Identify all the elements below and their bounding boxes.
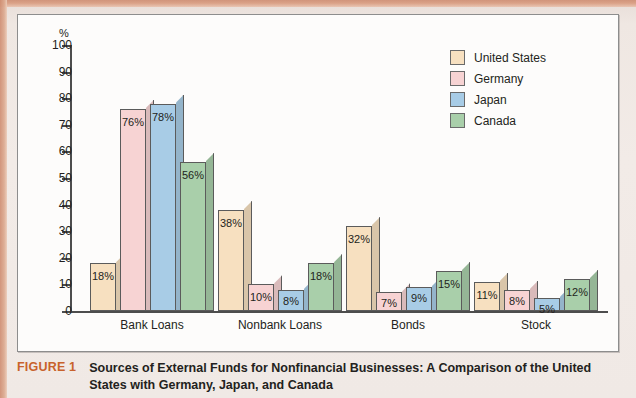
bar-side-face — [334, 254, 342, 311]
bar-value-label: 9% — [406, 293, 432, 304]
bar: 7% — [376, 15, 410, 311]
bar-value-label: 12% — [564, 287, 590, 298]
y-axis-tick-label: 10 — [32, 278, 72, 290]
y-axis-tick-label: 70 — [32, 119, 72, 131]
bar-front-face — [180, 162, 206, 311]
y-axis-tick-label: 80 — [32, 92, 72, 104]
bar: 12% — [564, 15, 598, 311]
legend-item-label: United States — [474, 51, 546, 65]
bar: 56% — [180, 15, 214, 311]
bar: 9% — [406, 15, 440, 311]
y-axis-tick-label: 100 — [32, 39, 72, 51]
page-top-accent-rule — [0, 0, 636, 7]
bar: 10% — [248, 15, 282, 311]
figure-number-label: FIGURE 1 — [17, 360, 76, 374]
bar-front-face — [436, 271, 462, 311]
page-left-accent-rule — [0, 0, 7, 398]
bar-side-face — [462, 262, 470, 311]
legend-item-label: Germany — [474, 72, 523, 86]
legend-item: Germany — [450, 68, 546, 89]
bar-value-label: 56% — [180, 170, 206, 181]
y-axis-tick-label: 20 — [32, 252, 72, 264]
legend: United StatesGermanyJapanCanada — [450, 47, 546, 131]
legend-swatch-icon — [450, 71, 465, 86]
y-axis-tick-label: 60 — [32, 145, 72, 157]
x-axis-category-label: Nonbank Loans — [218, 318, 342, 332]
legend-item: Japan — [450, 89, 546, 110]
bar-value-label: 32% — [346, 234, 372, 245]
bar-value-label: 18% — [90, 271, 116, 282]
bar: 76% — [120, 15, 154, 311]
y-axis-tick-label: 90 — [32, 66, 72, 78]
x-axis-category-label: Bank Loans — [90, 318, 214, 332]
bar-value-label: 10% — [248, 292, 274, 303]
bar-side-face — [590, 270, 598, 311]
chart-panel: % 1009080706050403020100 18%76%78%56%38%… — [17, 14, 619, 352]
x-axis-line — [70, 311, 608, 313]
x-axis-category-label: Stock — [474, 318, 598, 332]
legend-item-label: Canada — [474, 114, 516, 128]
bar-value-label: 78% — [150, 112, 176, 123]
bar-value-label: 5% — [534, 304, 560, 315]
bar: 8% — [278, 15, 312, 311]
bar: 78% — [150, 15, 184, 311]
figure-caption-text: Sources of External Funds for Nonfinanci… — [89, 360, 617, 393]
bar-value-label: 38% — [218, 218, 244, 229]
y-axis-tick-label: 30 — [32, 225, 72, 237]
bar-value-label: 7% — [376, 298, 402, 309]
legend-item: United States — [450, 47, 546, 68]
y-axis-tick-label: 40 — [32, 199, 72, 211]
legend-swatch-icon — [450, 92, 465, 107]
y-axis-tick-label: 0 — [32, 305, 72, 317]
y-axis-tick-label: 50 — [32, 172, 72, 184]
bar-front-face — [120, 109, 146, 311]
bar: 18% — [308, 15, 342, 311]
bar-value-label: 15% — [436, 279, 462, 290]
bar-value-label: 8% — [504, 296, 530, 307]
bar-value-label: 76% — [120, 117, 146, 128]
bar: 18% — [90, 15, 124, 311]
x-axis-category-label: Bonds — [346, 318, 470, 332]
bar-value-label: 8% — [278, 296, 304, 307]
figure-container: % 1009080706050403020100 18%76%78%56%38%… — [0, 0, 636, 398]
legend-swatch-icon — [450, 50, 465, 65]
legend-item: Canada — [450, 110, 546, 131]
plot-area: % 1009080706050403020100 18%76%78%56%38%… — [18, 15, 620, 353]
bar-value-label: 11% — [474, 290, 500, 301]
bar-side-face — [206, 153, 214, 311]
bar: 38% — [218, 15, 252, 311]
bar-value-label: 18% — [308, 271, 334, 282]
legend-swatch-icon — [450, 113, 465, 128]
legend-item-label: Japan — [474, 93, 507, 107]
figure-caption: FIGURE 1 Sources of External Funds for N… — [17, 360, 617, 393]
bar: 32% — [346, 15, 380, 311]
bar-front-face — [150, 104, 176, 311]
